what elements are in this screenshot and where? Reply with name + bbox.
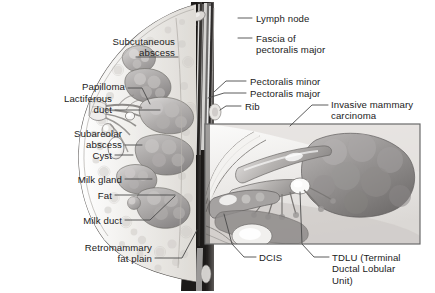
label-fat: Fat [98,190,112,201]
label-retromammary-fat-plain: Retromammary fat plain [85,242,152,265]
label-lymph-node: Lymph node [256,13,309,24]
breast-anatomy-figure: Subcutaneous abscess Papilloma Lactifero… [0,0,435,293]
label-fascia-of-pectoralis-major: Fascia of pectoralis major [256,33,325,56]
label-cyst: Cyst [92,150,112,161]
label-subcutaneous-abscess: Subcutaneous abscess [112,36,175,59]
label-subareolar-abscess: Subareolar abscess [74,128,122,151]
label-tdlu: TDLU (Terminal Ductal Lobular Unit) [332,252,401,286]
label-rib: Rib [245,101,260,112]
magnified-detail-inset [205,124,420,248]
label-milk-duct: Milk duct [83,215,122,226]
label-dcis: DCIS [259,252,282,263]
label-pectoralis-major: Pectoralis major [250,88,320,99]
label-milk-gland: Milk gland [78,174,122,185]
label-pectoralis-minor: Pectoralis minor [250,76,320,87]
label-invasive-mammary-carcinoma: Invasive mammary carcinoma [331,99,413,122]
label-lactiferous-duct: Lactiferous duct [64,93,112,116]
fat-lobule-small [128,197,141,210]
illustration-canvas [0,0,435,293]
label-papilloma: Papilloma [82,81,125,92]
